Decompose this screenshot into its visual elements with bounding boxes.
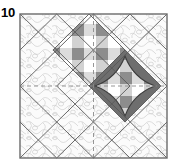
quilt-block-drawing (0, 0, 175, 165)
quilt-block-figure: 10 (0, 0, 175, 165)
figure-number-label: 10 (1, 6, 15, 20)
